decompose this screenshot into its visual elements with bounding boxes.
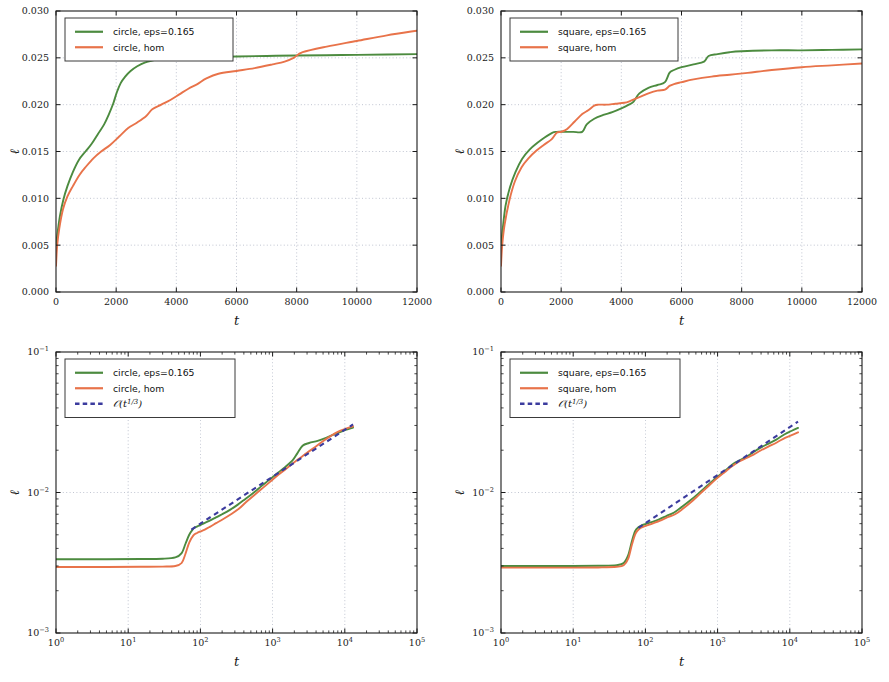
plot-top-left: 0200040006000800010000120000.0000.0050.0… — [0, 0, 444, 341]
tick-label: 10−2 — [27, 486, 49, 498]
curve-circle-eps-0-165 — [56, 428, 353, 560]
curve-square-eps-0-165 — [501, 428, 798, 566]
tick-label: 2000 — [549, 296, 573, 307]
tick-label: 105 — [409, 636, 425, 648]
legend: square, eps=0.165square, hom𝒪(t1/3) — [510, 359, 680, 418]
tick-label: 0 — [53, 296, 59, 307]
legend: circle, eps=0.165circle, hom — [65, 18, 233, 61]
panel-bottom-left-circle-loglog: 10010110210310410510−310−210−1tℓcircle, … — [0, 341, 444, 682]
tick-label: 0 — [498, 296, 504, 307]
plot-top-right: 0200040006000800010000120000.0000.0050.0… — [445, 0, 889, 341]
plot-bottom-left: 10010110210310410510−310−210−1tℓcircle, … — [0, 341, 444, 682]
tick-label: 4000 — [609, 296, 633, 307]
legend: circle, eps=0.165circle, hom𝒪(t1/3) — [65, 359, 235, 418]
tick-label: 103 — [709, 636, 725, 648]
tick-label: 0.010 — [22, 193, 49, 204]
tick-label: 101 — [120, 636, 136, 648]
data-curves — [501, 422, 798, 568]
tick-label: 10−1 — [27, 345, 49, 357]
tick-label: 10−2 — [472, 486, 494, 498]
tick-label: 0.005 — [467, 240, 494, 251]
legend-label: square, eps=0.165 — [558, 367, 647, 378]
tick-label: 0.020 — [467, 99, 494, 110]
tick-label: 104 — [782, 636, 798, 648]
tick-label: 10000 — [787, 296, 817, 307]
panel-top-left-circle-linear: 0200040006000800010000120000.0000.0050.0… — [0, 0, 444, 341]
x-axis-title: t — [679, 654, 685, 669]
tick-label: 0.005 — [22, 240, 49, 251]
legend-label: circle, eps=0.165 — [113, 26, 195, 37]
tick-label: 0.030 — [22, 5, 49, 16]
legend-box — [65, 18, 233, 61]
tick-label: 102 — [637, 636, 653, 648]
legend-label: square, eps=0.165 — [558, 26, 647, 37]
data-curves — [56, 424, 353, 567]
legend: square, eps=0.165square, hom — [510, 18, 678, 61]
tick-label: 10000 — [342, 296, 372, 307]
tick-label: 6000 — [224, 296, 248, 307]
tick-label: 12000 — [402, 296, 432, 307]
figure-four-panel-growth-law: 0200040006000800010000120000.0000.0050.0… — [0, 0, 889, 682]
y-axis-title: ℓ — [7, 489, 22, 495]
tick-label: 10−1 — [472, 345, 494, 357]
tick-label: 101 — [565, 636, 581, 648]
panel-top-right-square-linear: 0200040006000800010000120000.0000.0050.0… — [445, 0, 889, 341]
legend-label: circle, eps=0.165 — [113, 367, 195, 378]
x-axis-title: t — [234, 654, 240, 669]
tick-label: 8000 — [285, 296, 309, 307]
tick-label: 0.020 — [22, 99, 49, 110]
tick-label: 103 — [264, 636, 280, 648]
x-axis-title: t — [234, 313, 240, 328]
legend-label: circle, hom — [113, 383, 164, 394]
tick-label: 104 — [337, 636, 353, 648]
tick-label: 102 — [192, 636, 208, 648]
panel-bottom-right-square-loglog: 10010110210310410510−310−210−1tℓsquare, … — [445, 341, 889, 682]
tick-label: 105 — [854, 636, 870, 648]
tick-label: 0.010 — [467, 193, 494, 204]
tick-label: 100 — [493, 636, 509, 648]
legend-label: square, hom — [558, 383, 616, 394]
tick-label: 2000 — [104, 296, 128, 307]
tick-label: 0.000 — [22, 286, 49, 297]
tick-label: 0.025 — [467, 52, 494, 63]
curve-o-t-1-3 — [638, 422, 798, 528]
tick-label: 100 — [48, 636, 64, 648]
tick-label: 10−3 — [472, 626, 494, 638]
tick-label: 0.025 — [22, 52, 49, 63]
tick-label: 0.015 — [467, 146, 494, 157]
legend-label: square, hom — [558, 42, 616, 53]
tick-label: 6000 — [669, 296, 693, 307]
tick-label: 0.015 — [22, 146, 49, 157]
tick-label: 0.000 — [467, 286, 494, 297]
x-axis-title: t — [679, 313, 685, 328]
tick-label: 10−3 — [27, 626, 49, 638]
tick-label: 8000 — [730, 296, 754, 307]
y-axis-title: ℓ — [452, 148, 467, 154]
y-axis-title: ℓ — [7, 148, 22, 154]
curve-circle-hom — [56, 426, 353, 567]
y-axis-title: ℓ — [452, 489, 467, 495]
tick-label: 12000 — [847, 296, 877, 307]
tick-label: 0.030 — [467, 5, 494, 16]
plot-bottom-right: 10010110210310410510−310−210−1tℓsquare, … — [445, 341, 889, 682]
legend-box — [510, 18, 678, 61]
legend-label: circle, hom — [113, 42, 164, 53]
tick-label: 4000 — [164, 296, 188, 307]
